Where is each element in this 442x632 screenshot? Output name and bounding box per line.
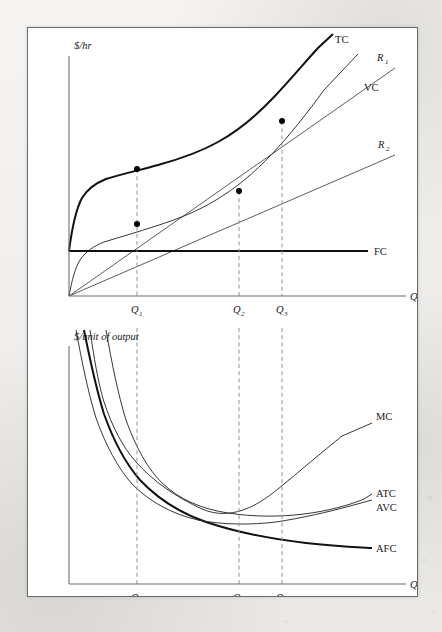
figure-svg: $/hr Q TC R 1 VC R 2 FC Q 1 (28, 28, 417, 596)
upper-tick-q1-subscript: 1 (139, 310, 143, 318)
lower-tick-q2-base: Q (233, 592, 241, 596)
upper-tick-q3-subscript: 3 (283, 310, 288, 318)
upper-tick-q2-subscript: 2 (241, 310, 245, 318)
upper-tick-q1: Q 1 (131, 304, 143, 318)
figure-frame: $/hr Q TC R 1 VC R 2 FC Q 1 (27, 27, 418, 597)
atc-curve-label: ATC (376, 488, 396, 499)
upper-panel: $/hr Q TC R 1 VC R 2 FC Q 1 (69, 34, 417, 318)
lower-x-axis-label: Q (410, 579, 417, 590)
r1-label-subscript: 1 (385, 58, 389, 66)
afc-curve (84, 330, 372, 548)
lower-tick-q1: Q 1 (131, 592, 143, 596)
lower-tick-q3-base: Q (276, 592, 284, 596)
r1-curve-label: R 1 (376, 52, 389, 66)
mc-curve (90, 330, 372, 513)
lower-tick-q1-base: Q (131, 592, 139, 596)
lower-y-axis-label: $/unit of output (74, 331, 140, 342)
upper-y-axis-label: $/hr (74, 40, 92, 51)
upper-tick-q2: Q 2 (233, 304, 245, 318)
upper-tick-q3: Q 3 (276, 304, 288, 318)
vc-curve-label: VC (364, 82, 379, 93)
r1-label-base: R (376, 52, 384, 63)
fc-curve-label: FC (374, 246, 387, 257)
upper-tick-q2-base: Q (233, 304, 241, 315)
point-vc-q2 (236, 188, 242, 194)
r2-label-subscript: 2 (386, 145, 390, 153)
lower-panel: $/unit of output Q MC ATC AVC AFC Q 1 Q … (69, 328, 417, 596)
avc-curve (76, 330, 372, 524)
r2-label-base: R (377, 139, 385, 150)
lower-tick-q2: Q 2 (233, 592, 245, 596)
upper-x-axis-label: Q (410, 291, 417, 302)
tc-curve-label: TC (335, 34, 348, 45)
afc-curve-label: AFC (376, 543, 396, 554)
point-vc-q1 (134, 221, 140, 227)
lower-tick-q3: Q 3 (276, 592, 288, 596)
upper-tick-q1-base: Q (131, 304, 139, 315)
ray-r1-line (69, 68, 395, 296)
upper-tick-q3-base: Q (276, 304, 284, 315)
vc-curve (69, 54, 358, 296)
avc-curve-label: AVC (376, 502, 397, 513)
r2-curve-label: R 2 (377, 139, 390, 153)
figure-page: $/hr Q TC R 1 VC R 2 FC Q 1 (0, 0, 442, 632)
point-tc-q3 (279, 118, 285, 124)
mc-curve-label: MC (376, 411, 392, 422)
point-tc-q1 (134, 166, 140, 172)
tc-curve (69, 34, 333, 251)
